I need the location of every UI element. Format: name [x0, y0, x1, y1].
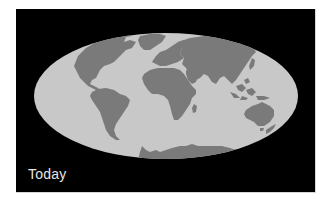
era-label: Today [28, 166, 66, 182]
